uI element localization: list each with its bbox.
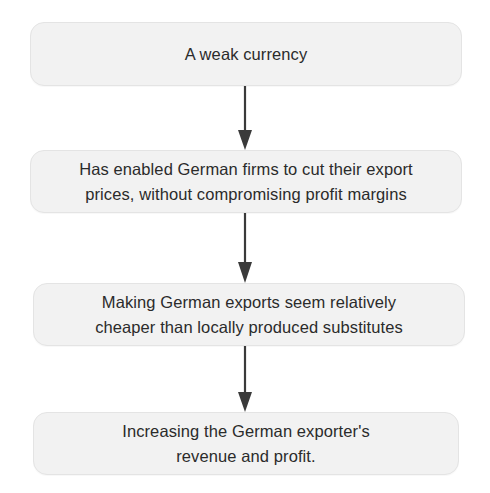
flow-arrow-down-3 <box>232 346 258 412</box>
flow-node-label: Has enabled German firms to cut their ex… <box>79 157 413 207</box>
flow-node-relatively-cheaper[interactable]: Making German exports seem relatively ch… <box>33 283 465 346</box>
flow-node-weak-currency[interactable]: A weak currency <box>30 22 462 86</box>
flow-node-revenue-profit[interactable]: Increasing the German exporter's revenue… <box>33 412 459 475</box>
flow-arrow-down-2 <box>232 213 258 283</box>
flowchart-canvas: A weak currency Has enabled German firms… <box>0 0 490 493</box>
flow-node-label: Increasing the German exporter's revenue… <box>122 419 370 469</box>
flow-node-label: Making German exports seem relatively ch… <box>95 290 403 340</box>
flow-arrow-down-1 <box>232 86 258 150</box>
flow-node-label: A weak currency <box>185 42 308 67</box>
flow-node-export-prices[interactable]: Has enabled German firms to cut their ex… <box>30 150 462 213</box>
